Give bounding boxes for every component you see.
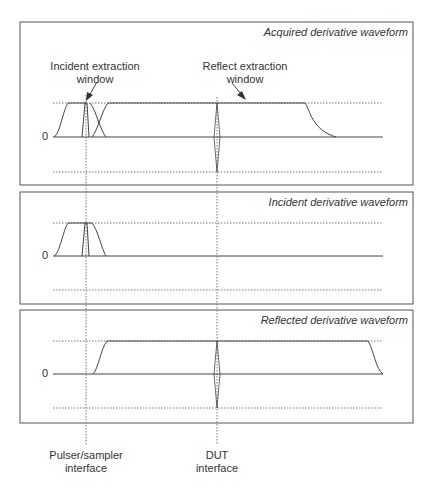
panel-incident-title: Incident derivative waveform bbox=[200, 196, 408, 208]
zero-label-incident: 0 bbox=[42, 249, 48, 261]
reflect-window-line1: Reflect extraction bbox=[195, 60, 295, 73]
pulser-line2: interface bbox=[36, 462, 136, 475]
dut-interface-label: DUT interface bbox=[177, 449, 257, 475]
dut-line2: interface bbox=[177, 462, 257, 475]
incident-waveform bbox=[53, 223, 383, 290]
pulser-interface-label: Pulser/sampler interface bbox=[36, 449, 136, 475]
incident-window-label: Incident extraction window bbox=[40, 60, 150, 86]
reflect-window-line2: window bbox=[195, 73, 295, 86]
panel-reflected-title: Reflected derivative waveform bbox=[200, 314, 408, 326]
dut-line1: DUT bbox=[177, 449, 257, 462]
zero-label-reflected: 0 bbox=[42, 367, 48, 379]
panel-acquired-title: Acquired derivative waveform bbox=[200, 26, 408, 38]
zero-label-acquired: 0 bbox=[42, 130, 48, 142]
incident-window-line2: window bbox=[40, 73, 150, 86]
acquired-waveform bbox=[53, 82, 383, 172]
reflected-waveform bbox=[53, 341, 383, 408]
pulser-line1: Pulser/sampler bbox=[36, 449, 136, 462]
incident-window-line1: Incident extraction bbox=[40, 60, 150, 73]
reflect-window-label: Reflect extraction window bbox=[195, 60, 295, 86]
